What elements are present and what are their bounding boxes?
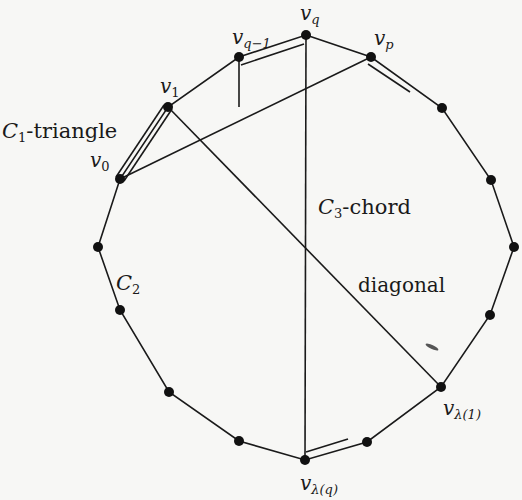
label-v-lambda-q: vλ(q) [300, 471, 338, 497]
c3-chord-label: C3-chord [318, 195, 411, 221]
vertex-v-1 [163, 102, 173, 112]
vertex-v-lambda-1 [436, 382, 446, 392]
vertex [93, 242, 103, 252]
vertex [234, 436, 244, 446]
vertex [437, 103, 447, 113]
c1-triangle-label: C1-triangle [2, 119, 117, 145]
vertex [362, 437, 372, 447]
label-v-q: vq [300, 1, 320, 27]
double-edge-v0-v1-inner [116, 105, 164, 177]
label-v-lambda-1: vλ(1) [443, 396, 481, 422]
polygon-diagram: vq vp vq−1 v1 v0 vλ(1) vλ(q) C1-triangle… [0, 0, 522, 500]
double-edge-vp [368, 64, 410, 92]
vertex-v-p [366, 52, 376, 62]
c2-label: C2 [116, 271, 140, 297]
vertex-v-q-minus-1 [234, 52, 244, 62]
vertex [115, 305, 125, 315]
vertex-v-0 [115, 174, 125, 184]
vertex [164, 387, 174, 397]
label-v-0: v0 [90, 148, 110, 174]
label-v-p: vp [374, 26, 394, 52]
label-v-1: v1 [160, 74, 180, 100]
vertex [485, 310, 495, 320]
vertex [486, 175, 496, 185]
vertex [509, 242, 519, 252]
v0-vp-chord-line [120, 57, 371, 179]
label-v-q-minus-1: vq−1 [232, 25, 271, 51]
vertex-v-lambda-q [300, 455, 310, 465]
smudge-mark [425, 342, 439, 352]
diagonal-label: diagonal [358, 273, 445, 297]
double-edge-v0-v1 [124, 109, 172, 181]
vertex-v-q [301, 30, 311, 40]
